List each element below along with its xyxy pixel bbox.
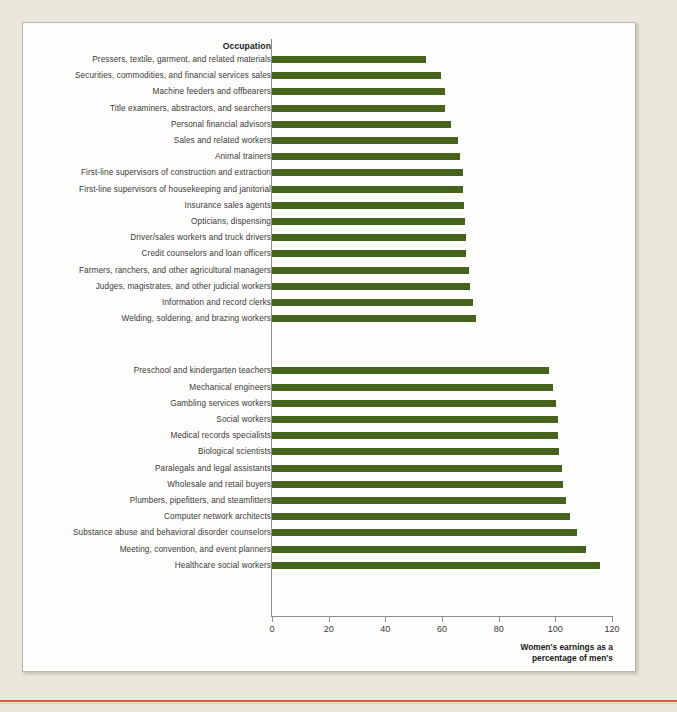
bar xyxy=(272,153,460,160)
bar xyxy=(272,367,549,374)
bar xyxy=(272,88,445,95)
bar xyxy=(272,384,553,391)
bar xyxy=(272,283,470,290)
bar-chart: Occupation 020406080100120 Pressers, tex… xyxy=(23,23,635,671)
x-tick-label-60: 60 xyxy=(422,624,462,634)
category-label: Biological scientists xyxy=(31,447,271,456)
bar xyxy=(272,169,463,176)
category-label: Pressers, textile, garment, and related … xyxy=(31,55,271,64)
bar xyxy=(272,186,463,193)
bar xyxy=(272,315,476,322)
category-label: Computer network architects xyxy=(31,512,271,521)
category-label: Insurance sales agents xyxy=(31,201,271,210)
x-tick-label-100: 100 xyxy=(535,624,575,634)
x-tick-0 xyxy=(272,616,273,622)
bar xyxy=(272,202,464,209)
bar xyxy=(272,234,466,241)
x-axis-caption: Women's earnings as a percentage of men'… xyxy=(423,642,613,664)
bar xyxy=(272,299,473,306)
bar xyxy=(272,513,570,520)
bar xyxy=(272,56,426,63)
category-label: Wholesale and retail buyers xyxy=(31,480,271,489)
category-label: Title examiners, abstractors, and search… xyxy=(31,104,271,113)
x-tick-label-40: 40 xyxy=(365,624,405,634)
x-tick-20 xyxy=(329,616,330,622)
bar xyxy=(272,105,445,112)
bar xyxy=(272,562,600,569)
bar xyxy=(272,267,469,274)
bar xyxy=(272,481,563,488)
bar xyxy=(272,72,441,79)
x-tick-80 xyxy=(499,616,500,622)
category-label: Sales and related workers xyxy=(31,136,271,145)
x-tick-60 xyxy=(442,616,443,622)
category-label: Machine feeders and offbearers xyxy=(31,87,271,96)
category-label: Paralegals and legal assistants xyxy=(31,464,271,473)
category-label: Judges, magistrates, and other judicial … xyxy=(31,282,271,291)
category-label: Animal trainers xyxy=(31,152,271,161)
category-label: First-line supervisors of construction a… xyxy=(31,168,271,177)
x-tick-label-80: 80 xyxy=(479,624,519,634)
x-axis-caption-line1: Women's earnings as a xyxy=(520,642,613,652)
category-label: Healthcare social workers xyxy=(31,561,271,570)
bar xyxy=(272,432,558,439)
page-background: Occupation 020406080100120 Pressers, tex… xyxy=(0,0,677,712)
category-label: Credit counselors and loan officers xyxy=(31,249,271,258)
bar xyxy=(272,218,465,225)
category-label: Driver/sales workers and truck drivers xyxy=(31,233,271,242)
category-label: Gambling services workers xyxy=(31,399,271,408)
x-tick-120 xyxy=(612,616,613,622)
x-tick-40 xyxy=(385,616,386,622)
footer-rule-secondary xyxy=(0,703,677,704)
x-tick-100 xyxy=(555,616,556,622)
category-label: Opticians, dispensing xyxy=(31,217,271,226)
bar xyxy=(272,546,586,553)
category-label: Securities, commodities, and financial s… xyxy=(31,71,271,80)
category-label: Preschool and kindergarten teachers xyxy=(31,366,271,375)
bar xyxy=(272,400,556,407)
x-axis-caption-line2: percentage of men's xyxy=(532,653,613,663)
category-label: Substance abuse and behavioral disorder … xyxy=(31,528,271,537)
bar xyxy=(272,529,577,536)
category-label: Welding, soldering, and brazing workers xyxy=(31,314,271,323)
category-label: Meeting, convention, and event planners xyxy=(31,545,271,554)
bar xyxy=(272,497,566,504)
chart-panel: Occupation 020406080100120 Pressers, tex… xyxy=(22,22,636,672)
bar xyxy=(272,465,562,472)
bar xyxy=(272,137,458,144)
category-label: Medical records specialists xyxy=(31,431,271,440)
x-tick-label-20: 20 xyxy=(309,624,349,634)
bar xyxy=(272,416,558,423)
footer-rule xyxy=(0,700,677,702)
category-label: First-line supervisors of housekeeping a… xyxy=(31,185,271,194)
category-label: Personal financial advisors xyxy=(31,120,271,129)
bar xyxy=(272,121,451,128)
occupation-column-header: Occupation xyxy=(31,41,271,51)
category-label: Farmers, ranchers, and other agricultura… xyxy=(31,266,271,275)
category-label: Plumbers, pipefitters, and steamfitters xyxy=(31,496,271,505)
x-tick-label-120: 120 xyxy=(592,624,632,634)
bar xyxy=(272,448,559,455)
x-tick-label-0: 0 xyxy=(252,624,292,634)
category-label: Information and record clerks xyxy=(31,298,271,307)
category-label: Mechanical engineers xyxy=(31,383,271,392)
bar xyxy=(272,250,466,257)
category-label: Social workers xyxy=(31,415,271,424)
